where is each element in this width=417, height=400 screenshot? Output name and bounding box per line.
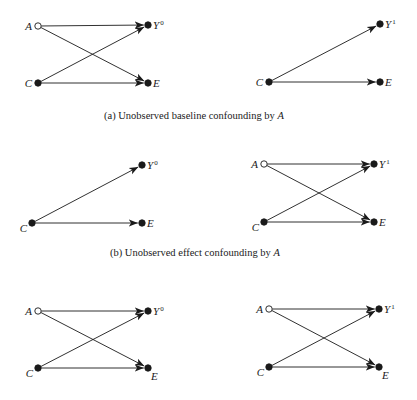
- edges-layer: [35, 25, 376, 368]
- observed-node-c: [35, 365, 41, 371]
- diagram-a-left: [41, 25, 144, 83]
- node-label-y: Y1: [385, 18, 396, 30]
- observed-node-c: [266, 364, 272, 370]
- node-label-e: E: [381, 369, 389, 381]
- observed-node-e: [377, 79, 383, 85]
- diagram-c-right: [272, 309, 375, 367]
- observed-node-y: [377, 21, 383, 27]
- nodes-c-right: AY1CE: [255, 303, 395, 381]
- diagram-b-right: [267, 164, 370, 222]
- node-label-c: C: [20, 222, 28, 234]
- unobserved-node-a: [35, 308, 41, 314]
- node-label-c: C: [252, 221, 260, 233]
- observed-node-e: [145, 80, 151, 86]
- observed-node-y: [376, 306, 382, 312]
- node-label-a: A: [250, 158, 258, 170]
- node-label-c: C: [25, 77, 33, 89]
- observed-node-y: [139, 162, 145, 168]
- node-label-e: E: [146, 217, 154, 229]
- node-label-e: E: [384, 76, 392, 88]
- node-label-y: Y0: [153, 305, 164, 317]
- caption-variable: A: [278, 110, 284, 121]
- diagram-c-left: [41, 311, 144, 368]
- observed-node-e: [371, 219, 377, 225]
- node-label-a: A: [24, 305, 32, 317]
- observed-node-e: [139, 220, 145, 226]
- node-label-c: C: [26, 367, 34, 379]
- node-label-c: C: [257, 366, 265, 378]
- edge-c-to-y: [272, 26, 376, 81]
- node-label-y: Y1: [384, 303, 395, 315]
- observed-node-y: [371, 161, 377, 167]
- diagram-b-left: [35, 167, 138, 223]
- unobserved-node-a: [35, 23, 41, 29]
- unobserved-node-a: [266, 306, 272, 312]
- observed-node-y: [145, 308, 151, 314]
- observed-node-c: [35, 80, 41, 86]
- caption-a: (a) Unobserved baseline confounding by A: [104, 110, 284, 121]
- observed-node-y: [145, 22, 151, 28]
- caption-text: (b) Unobserved effect confounding by: [110, 247, 273, 258]
- node-label-e: E: [150, 370, 158, 382]
- diagram-a-right: [272, 26, 376, 82]
- node-label-c: C: [256, 76, 264, 88]
- edge-a-to-y: [41, 25, 144, 26]
- caption-text: (a) Unobserved baseline confounding by: [104, 110, 278, 121]
- caption-variable: A: [273, 247, 279, 258]
- edge-c-to-y: [35, 167, 138, 222]
- node-label-e: E: [378, 216, 386, 228]
- observed-node-c: [261, 219, 267, 225]
- node-label-y: Y0: [153, 19, 164, 31]
- unobserved-node-a: [261, 161, 267, 167]
- nodes-c-left: AY0CE: [24, 305, 164, 382]
- node-label-a: A: [24, 20, 32, 32]
- node-label-a: A: [255, 303, 263, 315]
- observed-node-c: [29, 220, 35, 226]
- node-label-e: E: [152, 77, 160, 89]
- causal-diagrams-canvas: AY0CEY1CEY0CEAY1CEAY0CEAY1CE: [0, 0, 417, 400]
- caption-b: (b) Unobserved effect confounding by A: [110, 247, 280, 258]
- observed-node-c: [266, 79, 272, 85]
- node-label-y: Y1: [379, 158, 390, 170]
- node-label-y: Y0: [147, 159, 158, 171]
